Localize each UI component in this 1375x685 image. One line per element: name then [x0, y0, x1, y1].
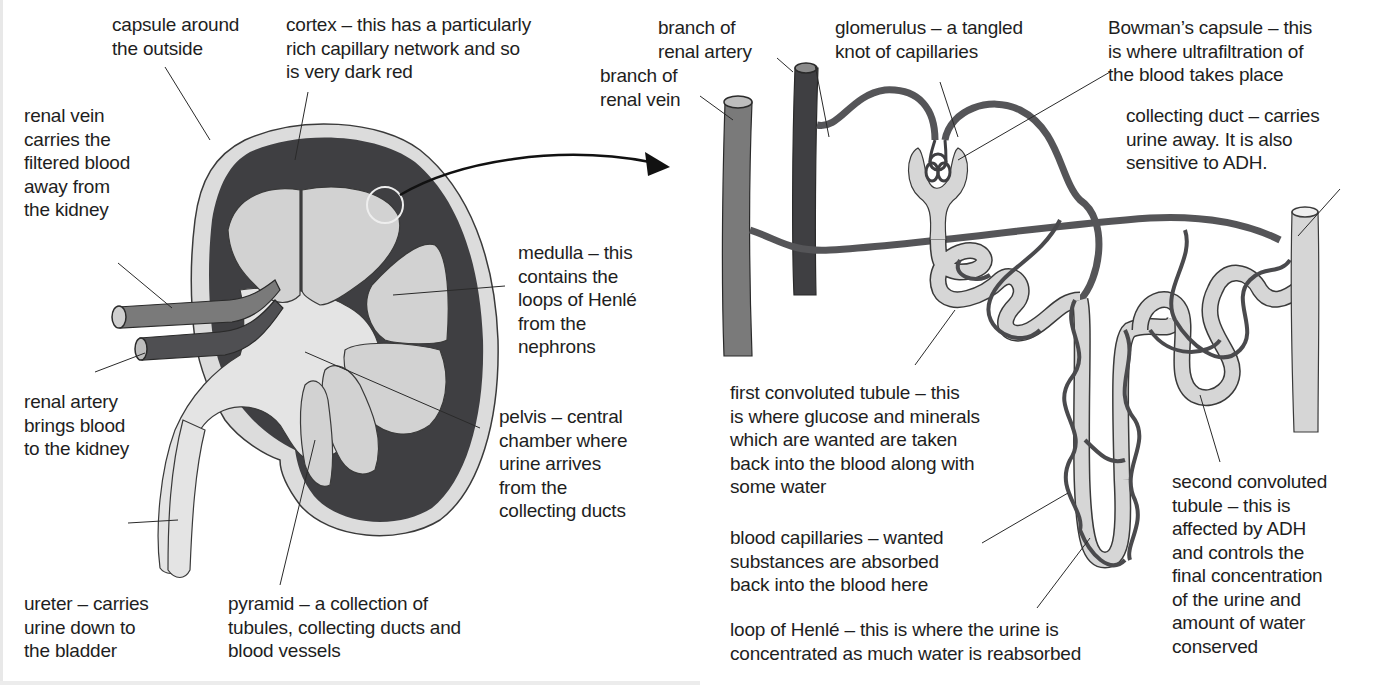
arrow-head-icon	[645, 152, 670, 176]
renal-vein-opening	[112, 306, 126, 328]
vein-capillary-branch	[750, 217, 1280, 250]
label-collecting-duct: collecting duct – carries urine away. It…	[1126, 104, 1320, 175]
branch-renal-artery-vessel	[793, 68, 818, 295]
bowmans-capsule-shape	[908, 148, 967, 240]
label-ureter: ureter – carries urine down to the bladd…	[24, 592, 149, 663]
label-second-convoluted-tubule: second convoluted tubule – this is affec…	[1172, 470, 1327, 658]
label-pelvis: pelvis – central chamber where urine arr…	[499, 405, 627, 523]
label-loop-of-henle: loop of Henlé – this is where the urine …	[730, 618, 1081, 665]
label-capsule: capsule around the outside	[112, 13, 239, 60]
branch-renal-vein-vessel	[723, 102, 752, 356]
label-cortex: cortex – this has a particularly rich ca…	[286, 13, 531, 84]
label-branch-renal-artery: branch of renal artery	[658, 16, 752, 63]
label-blood-capillaries: blood capillaries – wanted substances ar…	[730, 526, 943, 597]
label-first-convoluted-tubule: first convoluted tubule – this is where …	[730, 381, 980, 499]
label-renal-artery: renal artery brings blood to the kidney	[24, 390, 129, 461]
glomerulus-knot	[926, 140, 950, 181]
label-branch-renal-vein: branch of renal vein	[600, 64, 680, 111]
diagram-artwork	[0, 0, 1375, 685]
label-bowmans-capsule: Bowman’s capsule – this is where ultrafi…	[1108, 16, 1312, 87]
label-glomerulus: glomerulus – a tangled knot of capillari…	[835, 16, 1023, 63]
label-medulla: medulla – this contains the loops of Hen…	[518, 241, 637, 359]
collecting-duct-vessel	[1291, 212, 1319, 432]
label-pyramid: pyramid – a collection of tubules, colle…	[228, 592, 461, 663]
label-renal-vein: renal vein carries the filtered blood aw…	[24, 104, 130, 222]
kidney-nephron-diagram: capsule around the outside cortex – this…	[0, 0, 1375, 685]
renal-artery-opening	[135, 338, 147, 360]
afferent-arteriole	[817, 90, 935, 140]
